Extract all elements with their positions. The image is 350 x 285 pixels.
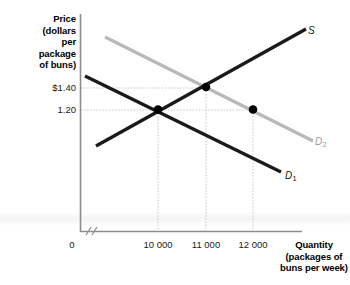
y-tick-label-1-20: 1.20 (30, 104, 76, 115)
y-axis-title-line-2: (dollars (2, 25, 76, 37)
data-point-equilibrium-s-d2 (202, 83, 211, 92)
data-point-equilibrium-s-d1 (154, 105, 163, 114)
curve-label-demand1-sub: 1 (293, 174, 297, 183)
supply-demand-chart: Price (dollars per package of buns) $1.4… (0, 0, 350, 285)
y-axis-title-line-5: of buns) (2, 59, 76, 71)
curve-label-demand2: D2 (315, 136, 326, 147)
x-axis-title-line-2: (packages of (278, 251, 350, 263)
y-axis-title-line-4: package (2, 48, 76, 60)
y-axis-title-line-1: Price (2, 13, 76, 25)
curve-label-demand2-text: D (315, 136, 322, 147)
x-axis-title: Quantity (packages of buns per week) (278, 239, 350, 274)
x-tick-label-12000: 12 000 (226, 239, 280, 250)
y-axis-title: Price (dollars per package of buns) (2, 13, 76, 71)
curve-label-demand1: D1 (285, 170, 296, 181)
y-tick-label-1-40: $1.40 (30, 82, 76, 93)
x-tick-label-11000: 11 000 (179, 239, 233, 250)
x-axis-title-line-3: buns per week) (278, 262, 350, 274)
origin-label: 0 (62, 239, 82, 250)
x-tick-label-10000: 10 000 (131, 239, 185, 250)
curve-label-supply: S (308, 25, 315, 36)
x-axis-title-line-1: Quantity (278, 239, 350, 251)
curve-label-supply-text: S (308, 25, 315, 36)
data-point-quantity-demanded-d2 (249, 105, 258, 114)
y-axis-title-line-3: per (2, 36, 76, 48)
curve-label-demand1-text: D (285, 170, 292, 181)
curve-label-demand2-sub: 2 (323, 140, 327, 149)
demand-curve-d1 (85, 76, 281, 172)
